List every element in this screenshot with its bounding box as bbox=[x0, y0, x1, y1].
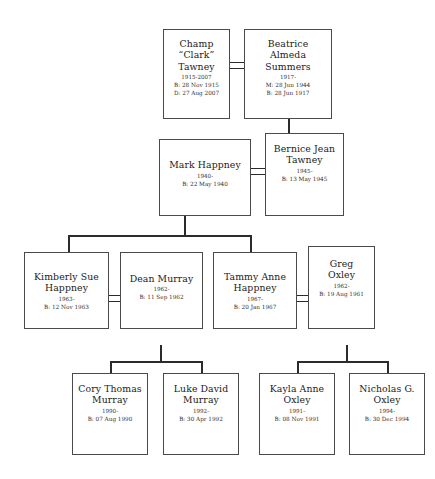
connector-murray-bus bbox=[110, 361, 203, 363]
person-birth-date: B: 11 Sep 1962 bbox=[139, 293, 183, 301]
connector-oxley-drop bbox=[346, 345, 348, 362]
connector-oxley-bus bbox=[297, 361, 389, 363]
person-birth-date: B: 19 Aug 1961 bbox=[319, 290, 364, 298]
connector-to-kayla bbox=[297, 361, 299, 373]
person-lifespan: 1945- bbox=[296, 167, 312, 175]
person-name: Luke David Murray bbox=[174, 383, 228, 406]
connector-to-cory bbox=[110, 361, 112, 373]
person-name: Beatrice Almeda Summers bbox=[265, 38, 310, 72]
person-box-kimberly-happney[interactable]: Kimberly Sue Happney 1963- B: 12 Nov 196… bbox=[24, 252, 109, 329]
person-name: Dean Murray bbox=[130, 273, 194, 284]
person-name: Kayla Anne Oxley bbox=[270, 383, 324, 406]
person-name: Nicholas G. Oxley bbox=[359, 383, 414, 406]
person-birth-date: B: 13 May 1945 bbox=[282, 175, 328, 183]
person-birth-date: B: 12 Nov 1963 bbox=[44, 303, 89, 311]
person-birth-date: B: 30 Dec 1994 bbox=[365, 415, 409, 423]
person-box-cory-murray[interactable]: Cory Thomas Murray 1990- B: 07 Aug 1990 bbox=[72, 373, 148, 455]
connector-murray-drop bbox=[160, 345, 162, 362]
person-box-tammy-happney[interactable]: Tammy Anne Happney 1967- B: 20 Jan 1967 bbox=[213, 252, 297, 329]
family-tree-diagram: Champ “Clark” Tawney 1915-2007 B: 28 Nov… bbox=[0, 0, 435, 479]
person-lifespan: 1992- bbox=[193, 407, 209, 415]
person-name: Greg Oxley bbox=[328, 258, 355, 281]
person-name: Cory Thomas Murray bbox=[78, 383, 141, 406]
person-name: Kimberly Sue Happney bbox=[34, 271, 99, 294]
person-box-nicholas-oxley[interactable]: Nicholas G. Oxley 1994- B: 30 Dec 1994 bbox=[349, 373, 425, 455]
connector-to-nicholas bbox=[387, 361, 389, 373]
person-name: Champ “Clark” Tawney bbox=[178, 38, 214, 72]
person-lifespan: 1917- bbox=[280, 73, 296, 81]
person-lifespan: 1990- bbox=[102, 407, 118, 415]
person-lifespan: 1991- bbox=[289, 407, 305, 415]
person-lifespan: 1962- bbox=[153, 285, 169, 293]
person-box-bernice-tawney[interactable]: Bernice Jean Tawney 1945- B: 13 May 1945 bbox=[265, 133, 344, 216]
person-birth-date: B: 22 May 1940 bbox=[182, 180, 228, 188]
person-birth-date: B: 30 Apr 1992 bbox=[179, 415, 223, 423]
person-box-mark-happney[interactable]: Mark Happney 1940- B: 22 May 1940 bbox=[159, 139, 251, 216]
person-birth-date: B: 07 Aug 1990 bbox=[88, 415, 133, 423]
person-lifespan: 1915-2007 bbox=[181, 73, 211, 81]
person-birth-date: B: 28 Nov 1915 bbox=[174, 81, 219, 89]
person-lifespan: 1940- bbox=[197, 172, 213, 180]
connector-gen2-drop bbox=[184, 216, 186, 236]
person-birth-date: B: 28 Jun 1917 bbox=[267, 89, 310, 97]
person-box-greg-oxley[interactable]: Greg Oxley 1962- B: 19 Aug 1961 bbox=[308, 246, 375, 329]
connector-to-kimberly bbox=[68, 235, 70, 252]
person-lifespan: 1962- bbox=[333, 282, 349, 290]
person-box-kayla-oxley[interactable]: Kayla Anne Oxley 1991- B: 08 Nov 1991 bbox=[259, 373, 335, 455]
marriage-link-champ-beatrice bbox=[229, 62, 244, 69]
marriage-link-mark-bernice bbox=[250, 168, 265, 175]
person-lifespan: 1967- bbox=[247, 295, 263, 303]
person-marriage-date: M: 28 Jun 1944 bbox=[266, 81, 310, 89]
person-name: Mark Happney bbox=[169, 159, 241, 170]
person-birth-date: B: 20 Jan 1967 bbox=[234, 303, 277, 311]
person-birth-date: B: 08 Nov 1991 bbox=[275, 415, 320, 423]
person-lifespan: 1963- bbox=[58, 295, 74, 303]
person-box-luke-murray[interactable]: Luke David Murray 1992- B: 30 Apr 1992 bbox=[163, 373, 239, 455]
person-name: Tammy Anne Happney bbox=[224, 271, 286, 294]
connector-to-tammy bbox=[250, 235, 252, 252]
person-box-beatrice-summers[interactable]: Beatrice Almeda Summers 1917- M: 28 Jun … bbox=[244, 29, 332, 119]
connector-to-luke bbox=[201, 361, 203, 373]
person-death-date: D: 27 Aug 2007 bbox=[174, 89, 219, 97]
person-box-champ-tawney[interactable]: Champ “Clark” Tawney 1915-2007 B: 28 Nov… bbox=[163, 29, 230, 119]
person-lifespan: 1994- bbox=[379, 407, 395, 415]
person-box-dean-murray[interactable]: Dean Murray 1962- B: 11 Sep 1962 bbox=[120, 252, 203, 329]
connector-gen2-bus bbox=[68, 235, 252, 237]
person-name: Bernice Jean Tawney bbox=[274, 143, 335, 166]
